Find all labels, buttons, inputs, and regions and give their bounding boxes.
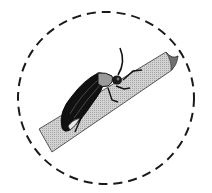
illustration: [0, 0, 212, 193]
firefly-illustration: [0, 0, 212, 193]
grass-blade: [39, 52, 178, 152]
